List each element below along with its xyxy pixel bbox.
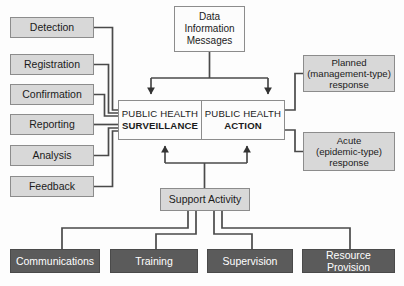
node-supervision-label: Supervision — [223, 255, 278, 267]
node-reporting[interactable]: Reporting — [10, 114, 94, 135]
node-communications-label: Communications — [16, 255, 94, 267]
node-resource-provision[interactable]: Resource Provision — [302, 249, 395, 273]
planned-line-3: response — [329, 79, 368, 90]
core-group: PUBLIC HEALTH SURVEILLANCE PUBLIC HEALTH… — [118, 100, 285, 140]
acute-line-1: Acute — [337, 135, 362, 146]
wire-action-to-acute — [285, 130, 303, 152]
wire-detection — [94, 28, 118, 111]
wire-confirmation — [94, 95, 118, 117]
wire-support-to-resource-provision — [222, 211, 350, 249]
node-acute-response[interactable]: Acute (epidemic-type) response — [303, 132, 395, 171]
surveillance-line-2: SURVEILLANCE — [122, 120, 198, 132]
node-feedback-label: Feedback — [29, 180, 75, 192]
node-data-information-messages[interactable]: Data Information Messages — [174, 6, 245, 52]
wire-support-to-communications — [62, 211, 188, 249]
node-support-activity-label: Support Activity — [169, 193, 241, 205]
wire-analysis — [94, 128, 118, 156]
node-confirmation-label: Confirmation — [22, 88, 82, 100]
planned-line-1: Planned — [331, 57, 366, 68]
planned-line-2: (management-type) — [307, 68, 391, 79]
action-line-1: PUBLIC HEALTH — [205, 108, 281, 120]
surveillance-line-1: PUBLIC HEALTH — [122, 108, 198, 120]
acute-line-2: (epidemic-type) — [316, 146, 382, 157]
node-detection-label: Detection — [30, 21, 74, 33]
node-resource-provision-label: Resource Provision — [303, 249, 394, 274]
data-line-3: Messages — [187, 35, 233, 47]
node-feedback[interactable]: Feedback — [10, 176, 94, 197]
node-supervision[interactable]: Supervision — [207, 249, 293, 273]
node-registration-label: Registration — [24, 58, 80, 70]
node-training[interactable]: Training — [110, 249, 198, 273]
action-line-2: ACTION — [224, 120, 262, 132]
wire-feedback — [94, 131, 118, 187]
node-analysis-label: Analysis — [32, 149, 71, 161]
node-support-activity[interactable]: Support Activity — [160, 188, 250, 211]
node-detection[interactable]: Detection — [10, 17, 94, 38]
node-planned-response[interactable]: Planned (management-type) response — [303, 55, 395, 92]
data-line-1: Data — [199, 11, 220, 23]
node-public-health-surveillance[interactable]: PUBLIC HEALTH SURVEILLANCE — [119, 101, 201, 139]
acute-line-3: response — [329, 157, 368, 168]
node-registration[interactable]: Registration — [10, 54, 94, 75]
node-public-health-action[interactable]: PUBLIC HEALTH ACTION — [202, 101, 284, 139]
wire-support-to-training — [156, 211, 196, 249]
wire-action-to-planned — [285, 74, 303, 111]
node-training-label: Training — [135, 255, 173, 267]
data-line-2: Information — [184, 23, 234, 35]
wire-support-to-supervision — [214, 211, 252, 249]
node-reporting-label: Reporting — [29, 118, 75, 130]
wire-registration — [94, 65, 118, 114]
public-health-surveillance-diagram: Detection Registration Confirmation Repo… — [0, 0, 404, 286]
node-communications[interactable]: Communications — [10, 249, 100, 273]
node-confirmation[interactable]: Confirmation — [10, 84, 94, 105]
node-analysis[interactable]: Analysis — [10, 145, 94, 166]
